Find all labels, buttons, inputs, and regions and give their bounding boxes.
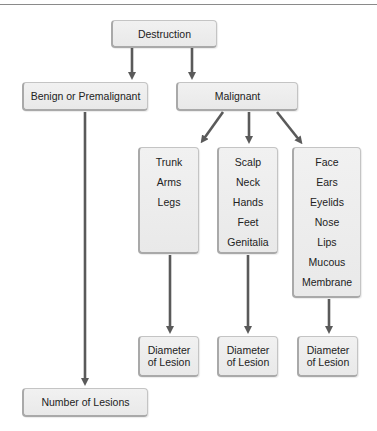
site-item: Feet: [237, 216, 258, 228]
column-box-scalp: Scalp Neck Hands Feet Genitalia: [217, 147, 278, 254]
site-item: Arms: [157, 176, 182, 188]
diameter-box-3: Diameter of Lesion: [297, 336, 358, 377]
site-item-mucous-membrane: Mucous Membrane: [302, 256, 352, 296]
diameter-box-2: Diameter of Lesion: [217, 336, 278, 377]
malignant-label: Malignant: [215, 90, 261, 102]
malignant-box: Malignant: [176, 82, 298, 111]
column-box-face: Face Ears Eyelids Nose Lips Mucous Membr…: [292, 147, 361, 298]
site-item: Face: [315, 156, 338, 168]
site-item: Lips: [317, 236, 336, 248]
site-item: Ears: [316, 176, 338, 188]
destruction-box: Destruction: [111, 20, 217, 48]
site-item: Genitalia: [227, 236, 268, 248]
site-item: Hands: [233, 196, 263, 208]
benign-label: Benign or Premalignant: [31, 90, 141, 102]
destruction-label: Destruction: [138, 28, 191, 40]
diameter-box-1: Diameter of Lesion: [138, 336, 199, 377]
site-item: Scalp: [235, 156, 261, 168]
site-item: Neck: [236, 176, 260, 188]
column-box-trunk: Trunk Arms Legs: [138, 147, 199, 254]
site-item: Legs: [158, 196, 181, 208]
site-item: Trunk: [156, 156, 182, 168]
number-of-lesions-label: Number of Lesions: [41, 396, 129, 408]
number-of-lesions-box: Number of Lesions: [22, 388, 148, 417]
site-item: Eyelids: [310, 196, 344, 208]
site-item: Nose: [315, 216, 340, 228]
benign-box: Benign or Premalignant: [22, 82, 148, 111]
